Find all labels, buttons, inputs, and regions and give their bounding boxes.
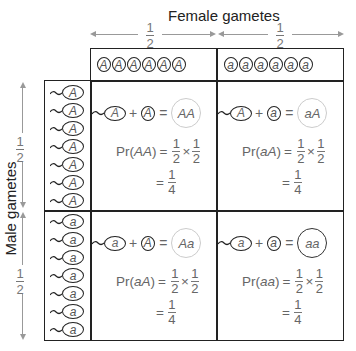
egg-allele: A bbox=[141, 106, 155, 121]
probability-expression: Pr(aA) = 12 × 12 bbox=[116, 268, 201, 295]
sperm-tail-icon bbox=[218, 240, 230, 246]
cell-Aa: a + A = Aa Pr(aA) = 12 × 12 = 14 bbox=[92, 228, 201, 326]
sperm-a: a bbox=[50, 286, 84, 301]
egg-a: a bbox=[284, 57, 298, 72]
male-fraction-top: 12 bbox=[18, 82, 28, 208]
female-fraction-left: 12 bbox=[90, 22, 216, 48]
sperm-A: A bbox=[50, 139, 84, 154]
sperm-a: a bbox=[50, 232, 84, 247]
probability-result: = 14 bbox=[282, 299, 327, 326]
sperm-tail-icon bbox=[92, 240, 104, 246]
probability-result: = 14 bbox=[282, 169, 327, 196]
sperm-A: A bbox=[50, 85, 84, 100]
sperm-a: a bbox=[50, 304, 84, 319]
probability-result: = 14 bbox=[156, 169, 202, 196]
sperm-A: A bbox=[50, 121, 84, 136]
arrow-right-icon bbox=[338, 31, 344, 37]
cell-aa: a + a = aa Pr(aa) = 12 × 12 = 14 bbox=[218, 228, 327, 326]
zygote: aA bbox=[297, 98, 327, 128]
grid-horizontal-divider bbox=[44, 210, 344, 212]
sperm-A: A bbox=[50, 175, 84, 190]
probability-expression: Pr(AA) = 12 × 12 bbox=[116, 138, 202, 165]
male-fraction-bottom: 12 bbox=[18, 212, 28, 340]
sperm-a: a bbox=[50, 322, 84, 337]
egg-A: A bbox=[127, 57, 141, 72]
sperm-a: a bbox=[50, 250, 84, 265]
egg-A: A bbox=[172, 57, 186, 72]
sperm-A: A bbox=[50, 193, 84, 208]
probability-expression: Pr(aA) = 12 × 12 bbox=[242, 138, 327, 165]
cell-AA: A + A = AA Pr(AA) = 12 × 12 = 14 bbox=[92, 98, 202, 196]
egg-row-A: A A A A A A bbox=[96, 57, 186, 72]
egg-a: a bbox=[254, 57, 268, 72]
probability-result: = 14 bbox=[156, 299, 201, 326]
egg-allele: a bbox=[267, 106, 281, 121]
zygote: aa bbox=[297, 228, 327, 258]
egg-A: A bbox=[112, 57, 126, 72]
sperm-A: A bbox=[50, 103, 84, 118]
egg-row-a: a a a a a a bbox=[223, 57, 313, 72]
zygote: AA bbox=[171, 98, 201, 128]
sperm-A: A bbox=[50, 157, 84, 172]
sperm-tail-icon bbox=[92, 110, 104, 116]
egg-A: A bbox=[97, 57, 111, 72]
sperm-allele: a bbox=[104, 236, 126, 251]
egg-a: a bbox=[299, 57, 313, 72]
egg-a: a bbox=[239, 57, 253, 72]
sperm-tail-icon bbox=[218, 110, 230, 116]
probability-expression: Pr(aa) = 12 × 12 bbox=[242, 268, 327, 295]
egg-allele: a bbox=[267, 236, 281, 251]
sperm-allele: A bbox=[104, 106, 126, 121]
male-gametes-label: Male gametes bbox=[2, 159, 19, 259]
egg-A: A bbox=[157, 57, 171, 72]
sperm-a: a bbox=[50, 268, 84, 283]
sperm-allele: A bbox=[230, 106, 252, 121]
zygote: Aa bbox=[171, 228, 201, 258]
female-fraction-right: 12 bbox=[218, 22, 344, 48]
egg-a: a bbox=[224, 57, 238, 72]
egg-A: A bbox=[142, 57, 156, 72]
sperm-allele: a bbox=[230, 236, 252, 251]
arrow-right-icon bbox=[210, 31, 216, 37]
sperm-a: a bbox=[50, 214, 84, 229]
egg-a: a bbox=[269, 57, 283, 72]
egg-allele: A bbox=[141, 236, 155, 251]
cell-aA: A + a = aA Pr(aA) = 12 × 12 = 14 bbox=[218, 98, 327, 196]
